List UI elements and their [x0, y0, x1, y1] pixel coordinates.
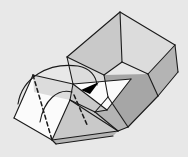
folding-box-diagram [0, 0, 188, 157]
figure-root: Folding carton diagram Isometric line dr… [0, 0, 188, 157]
